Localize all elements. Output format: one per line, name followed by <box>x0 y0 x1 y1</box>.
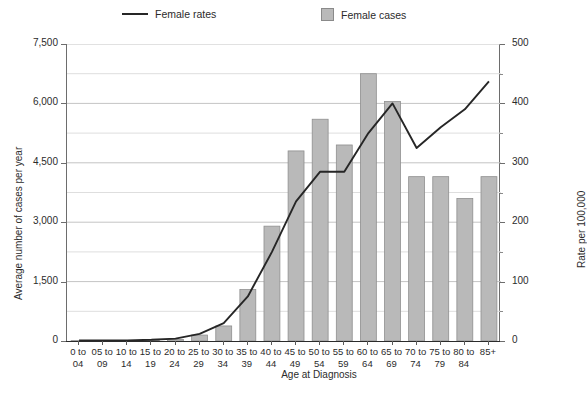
axis-tick <box>175 341 176 345</box>
x-tick-line2: 19 <box>145 358 156 369</box>
axis-tick <box>343 341 344 345</box>
axis-tick <box>500 74 503 75</box>
axis-tick <box>500 252 503 253</box>
x-tick-line2: 04 <box>73 358 84 369</box>
x-tick-line2: 59 <box>338 358 349 369</box>
x-tick-line2: 34 <box>217 358 228 369</box>
axis-tick <box>126 341 127 345</box>
axis-tick <box>392 341 393 345</box>
x-tick-line2: 14 <box>121 358 132 369</box>
axis-tick <box>61 341 66 342</box>
y-axis-right-tick-label: 500 <box>512 37 552 48</box>
y-axis-left-tick-label: 7,500 <box>0 37 58 48</box>
x-tick-line2: 49 <box>290 358 301 369</box>
y-axis-right-tick-label: 200 <box>512 215 552 226</box>
x-tick-line2: 69 <box>386 358 397 369</box>
axis-tick <box>500 222 505 223</box>
y-axis-right-tick-label: 0 <box>512 334 552 345</box>
axis-tick <box>500 103 505 104</box>
axis-tick <box>500 282 505 283</box>
axis-tick <box>464 341 465 345</box>
x-tick-line2: 09 <box>97 358 108 369</box>
x-axis-title: Age at Diagnosis <box>0 369 586 380</box>
axis-tick <box>102 341 103 345</box>
axis-tick <box>319 341 320 345</box>
axis-tick <box>500 133 503 134</box>
y-axis-left-tick-label: 4,500 <box>0 156 58 167</box>
axis-tick <box>199 341 200 345</box>
x-tick-line1: 0 to <box>70 346 86 357</box>
x-tick-line2: 84 <box>459 358 470 369</box>
x-tick-line2: 29 <box>193 358 204 369</box>
axis-tick <box>367 341 368 345</box>
axis-tick <box>61 44 66 45</box>
x-tick-line2: 54 <box>314 358 325 369</box>
axis-tick <box>488 341 489 345</box>
y-axis-right-tick-label: 300 <box>512 156 552 167</box>
y-axis-left-tick-label: 3,000 <box>0 215 58 226</box>
axis-tick <box>500 311 503 312</box>
axis-tick <box>500 341 505 342</box>
axis-tick <box>500 193 503 194</box>
x-tick-line2: 79 <box>434 358 445 369</box>
axis-tick <box>271 341 272 345</box>
y-axis-right-tick-label: 400 <box>512 96 552 107</box>
x-tick-line2: 24 <box>169 358 180 369</box>
y-axis-left-tick-label: 0 <box>0 334 58 345</box>
axis-tick <box>500 163 505 164</box>
y-axis-right-tick-label: 100 <box>512 275 552 286</box>
x-axis-tick-label: 85+ <box>472 346 504 358</box>
x-tick-line2: 44 <box>266 358 277 369</box>
axis-tick <box>61 222 66 223</box>
x-tick-line2: 64 <box>362 358 373 369</box>
axis-tick <box>78 341 79 345</box>
x-tick-line2: 39 <box>242 358 253 369</box>
axis-tick <box>61 103 66 104</box>
axis-tick <box>440 341 441 345</box>
axis-tick <box>61 163 66 164</box>
axis-tick <box>416 341 417 345</box>
x-tick-line2: 74 <box>410 358 421 369</box>
y-axis-left-tick-label: 6,000 <box>0 96 58 107</box>
axis-tick <box>247 341 248 345</box>
axis-tick <box>295 341 296 345</box>
axis-tick <box>500 44 505 45</box>
axis-tick <box>150 341 151 345</box>
axis-tick <box>223 341 224 345</box>
axis-tick <box>61 282 66 283</box>
x-tick-line1: 85+ <box>480 346 496 357</box>
y-axis-left-tick-label: 1,500 <box>0 275 58 286</box>
